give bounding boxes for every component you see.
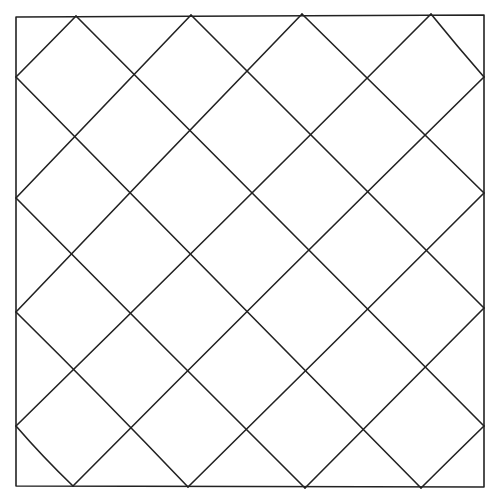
lattice-line (16, 198, 305, 488)
lattice-line (188, 193, 484, 487)
diamond-lattice-drawing (0, 0, 493, 502)
lattice-line (16, 312, 188, 487)
diagonal-lattice-lines (16, 14, 484, 488)
lattice-line (421, 426, 484, 488)
lattice-line (76, 16, 484, 426)
lattice-line (16, 77, 421, 488)
square-frame (16, 15, 484, 487)
lattice-line (16, 16, 76, 77)
lattice-line (16, 15, 191, 198)
lattice-line (431, 14, 484, 77)
lattice-line (191, 15, 484, 308)
lattice-line (16, 426, 73, 486)
lattice-line (16, 14, 302, 312)
lattice-line (16, 14, 431, 426)
lattice-line (73, 77, 484, 486)
